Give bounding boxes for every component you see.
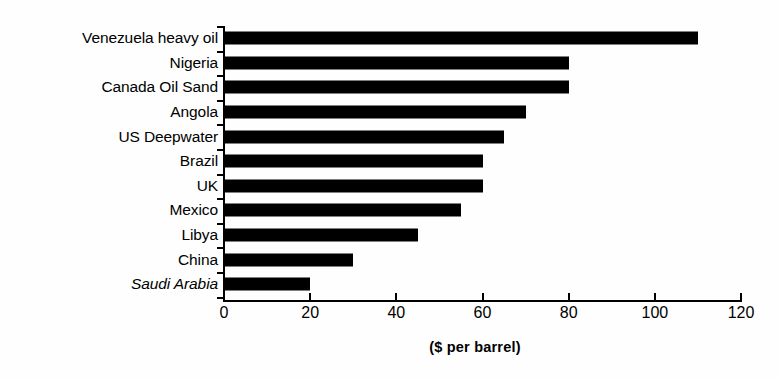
category-axis-tick: [217, 51, 224, 53]
category-label: Saudi Arabia: [131, 277, 218, 293]
bar: [224, 32, 698, 45]
chart-row: US Deepwater: [0, 124, 780, 149]
category-label: UK: [197, 178, 218, 194]
category-axis-tick: [217, 223, 224, 225]
category-label: Nigeria: [170, 55, 218, 71]
category-label: Canada Oil Sand: [101, 80, 218, 96]
category-axis-tick: [217, 100, 224, 102]
category-label: Libya: [181, 227, 218, 243]
bar: [224, 229, 418, 242]
category-axis-tick: [217, 247, 224, 249]
category-axis-tick: [217, 198, 224, 200]
category-axis-tick: [217, 174, 224, 176]
category-label: China: [178, 252, 218, 268]
value-axis-tick-label: 0: [220, 305, 229, 321]
chart-row: Angola: [0, 100, 780, 125]
bar: [224, 204, 461, 217]
category-axis-tick: [217, 272, 224, 274]
bar: [224, 81, 569, 94]
chart-row: China: [0, 247, 780, 272]
chart-row: Canada Oil Sand: [0, 75, 780, 100]
bar: [224, 155, 483, 168]
chart-rows: Venezuela heavy oilNigeriaCanada Oil San…: [0, 26, 780, 300]
chart-row: Libya: [0, 223, 780, 248]
bar: [224, 278, 310, 291]
chart-row: Venezuela heavy oil: [0, 26, 780, 51]
value-axis-tick-label: 80: [560, 305, 578, 321]
chart-row: UK: [0, 174, 780, 199]
value-axis-tick-label: 20: [301, 305, 319, 321]
x-axis-title-label: ($ per barrel): [429, 339, 520, 355]
chart-row: Saudi Arabia: [0, 272, 780, 297]
bar: [224, 106, 526, 119]
category-axis-tick: [217, 75, 224, 77]
chart-row: Nigeria: [0, 51, 780, 76]
category-label: Brazil: [180, 154, 218, 170]
category-axis-tick: [217, 149, 224, 151]
value-axis-tick-label: 100: [641, 305, 668, 321]
category-label: US Deepwater: [118, 129, 218, 145]
category-label: Venezuela heavy oil: [82, 31, 218, 47]
bar: [224, 179, 483, 192]
category-axis-tick: [217, 26, 224, 28]
bar: [224, 130, 504, 143]
x-axis-title: ($ per barrel): [0, 339, 780, 355]
category-axis-tick: [217, 124, 224, 126]
chart-row: Mexico: [0, 198, 780, 223]
value-axis-tick-label: 40: [387, 305, 405, 321]
value-axis-line: [223, 300, 742, 302]
value-axis-tick-label: 120: [728, 305, 755, 321]
bar: [224, 253, 353, 266]
category-axis-tick: [217, 297, 224, 299]
bar: [224, 56, 569, 69]
chart-row: Brazil: [0, 149, 780, 174]
bar-chart: Venezuela heavy oilNigeriaCanada Oil San…: [0, 0, 780, 379]
category-label: Mexico: [170, 203, 219, 219]
value-axis-tick-label: 60: [474, 305, 492, 321]
category-label: Angola: [170, 104, 218, 120]
